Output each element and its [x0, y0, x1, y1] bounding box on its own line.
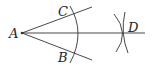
ray-ab [22, 33, 92, 60]
label-d: D [127, 20, 139, 35]
angle-bisector-diagram: A C B D [0, 0, 152, 69]
label-a: A [8, 26, 18, 41]
ray-ac [22, 7, 92, 33]
label-c: C [58, 4, 68, 19]
point-a-dot [21, 32, 24, 35]
label-b: B [57, 50, 68, 65]
